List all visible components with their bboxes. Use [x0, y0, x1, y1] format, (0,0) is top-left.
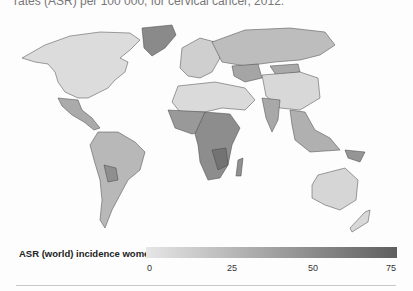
region-central-asia — [232, 64, 262, 82]
region-new-zealand — [350, 210, 370, 232]
legend-tick-0: 0 — [147, 263, 152, 273]
region-australia — [312, 168, 358, 210]
region-russia — [212, 28, 335, 66]
region-north-africa-middle-east — [172, 82, 255, 112]
legend-tick-25: 25 — [227, 263, 237, 273]
region-madagascar — [236, 158, 243, 176]
region-central-america — [58, 98, 100, 130]
region-india — [262, 98, 280, 132]
world-choropleth-map — [0, 10, 413, 240]
region-greenland — [142, 25, 176, 56]
legend-tick-75: 75 — [386, 263, 396, 273]
legend-title: ASR (world) incidence women — [19, 248, 155, 259]
region-north-america — [22, 32, 140, 98]
region-southeast-asia — [290, 110, 340, 152]
legend-color-scale — [146, 247, 397, 258]
legend-tick-50: 50 — [308, 263, 318, 273]
region-sub-saharan-africa — [195, 112, 240, 180]
chart-caption: rates (ASR) per 100 000, for cervical ca… — [14, 0, 284, 8]
bottom-divider — [16, 285, 396, 286]
region-papua-new-guinea — [345, 150, 365, 162]
